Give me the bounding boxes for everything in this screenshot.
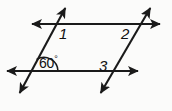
right-transversal-line <box>101 8 151 93</box>
angle-label-3: 3 <box>99 58 107 73</box>
left-transversal-line <box>20 8 66 93</box>
angle-measure-value: 60 <box>39 55 54 71</box>
angle-label-2: 2 <box>121 26 129 41</box>
angle-label-1: 1 <box>59 26 67 41</box>
geometry-figure: 1 2 3 60° <box>0 0 172 111</box>
geometry-diagram <box>0 0 172 111</box>
angle-measure-label: 60° <box>39 56 58 70</box>
degree-symbol: ° <box>54 54 57 64</box>
